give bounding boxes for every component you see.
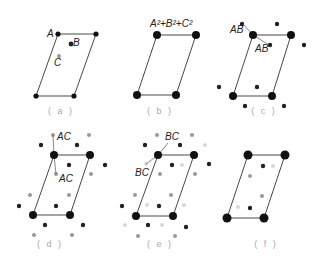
atom-label: BC xyxy=(165,131,180,142)
lattice-point xyxy=(33,93,38,98)
lattice-point xyxy=(192,31,200,39)
mid-atom-dot xyxy=(248,174,252,178)
light-atom-dot xyxy=(236,205,240,209)
light-atom-dot xyxy=(180,163,184,167)
mid-atom-dot xyxy=(260,194,264,198)
unit-cell-outline xyxy=(36,34,96,96)
dark-atom-dot xyxy=(43,223,47,227)
lattice-point xyxy=(169,212,177,220)
dark-atom-dot xyxy=(157,204,161,208)
dark-atom-dot xyxy=(302,43,306,47)
light-atom-dot xyxy=(271,164,275,168)
panel-caption: ( c ) xyxy=(251,106,277,116)
panel-a: ABC( a ) xyxy=(33,28,98,116)
unit-cell-outline xyxy=(137,35,196,95)
dark-atom-dot xyxy=(54,204,58,208)
lattice-point xyxy=(172,91,180,99)
light-atom-dot xyxy=(160,223,164,227)
dark-atom-dot xyxy=(39,143,43,147)
unit-cell-outline xyxy=(33,155,90,215)
dark-atom-dot xyxy=(243,104,247,108)
panel-caption: ( d ) xyxy=(37,239,63,249)
light-atom-dot xyxy=(145,203,149,207)
mid-atom-dot xyxy=(155,133,159,137)
lattice-point xyxy=(55,31,60,36)
atom-label: AC xyxy=(58,173,74,184)
dark-atom-dot xyxy=(184,225,188,229)
dark-atom-dot xyxy=(103,163,107,167)
panel-d: ACAC( d ) xyxy=(17,131,107,249)
dark-atom-dot xyxy=(207,162,211,166)
light-atom-dot xyxy=(182,203,186,207)
dark-atom-dot xyxy=(170,163,174,167)
lattice-diagram: ABC( a )A²+B²+C²( b )ABAB( c )ACAC( d )B… xyxy=(0,0,321,272)
lattice-point xyxy=(71,93,76,98)
atom-label: AB xyxy=(229,24,244,35)
panel-caption: ( a ) xyxy=(48,106,74,116)
dark-atom-dot xyxy=(275,22,279,26)
dark-atom-dot xyxy=(217,85,221,89)
panel-f: ( f ) xyxy=(223,151,290,250)
dark-atom-dot xyxy=(143,143,147,147)
lattice-point xyxy=(223,214,232,223)
light-atom-dot xyxy=(123,223,127,227)
lattice-point xyxy=(268,92,276,100)
dark-atom-dot xyxy=(17,204,21,208)
mid-atom-dot xyxy=(173,234,177,238)
dark-atom-dot xyxy=(67,163,71,167)
atom-label: AC xyxy=(56,131,72,142)
mid-atom-dot xyxy=(28,193,32,197)
lattice-point xyxy=(260,214,269,223)
lattice-point xyxy=(190,151,198,159)
mid-atom-dot xyxy=(190,133,194,137)
dark-atom-dot xyxy=(146,223,150,227)
panel-caption: ( e ) xyxy=(147,239,173,249)
mid-atom-dot xyxy=(89,172,93,176)
dark-atom-dot xyxy=(248,206,252,210)
mid-atom-dot xyxy=(70,233,74,237)
diagram-canvas: ABC( a )A²+B²+C²( b )ABAB( c )ACAC( d )B… xyxy=(0,0,321,272)
atom-label: AB xyxy=(254,43,269,54)
lattice-point xyxy=(29,211,37,219)
lattice-point xyxy=(249,31,257,39)
unit-cell-outline xyxy=(227,155,285,218)
atom-label: BC xyxy=(135,167,150,178)
mid-atom-dot xyxy=(136,234,140,238)
panel-e: BCBC( e ) xyxy=(120,131,211,249)
mid-atom-dot xyxy=(32,233,36,237)
dark-atom-dot xyxy=(75,143,79,147)
atom-label: B xyxy=(73,37,80,48)
lattice-point xyxy=(229,92,237,100)
atom-label: C xyxy=(54,57,62,68)
panel-c: ABAB( c ) xyxy=(217,22,306,116)
dark-atom-dot xyxy=(282,104,286,108)
lattice-point xyxy=(133,91,141,99)
lattice-point xyxy=(287,31,295,39)
mid-atom-dot xyxy=(193,172,197,176)
mid-atom-dot xyxy=(67,193,71,197)
mid-atom-dot xyxy=(169,193,173,197)
lattice-point xyxy=(154,151,162,159)
atom-label: A xyxy=(46,28,54,39)
lattice-point xyxy=(281,151,290,160)
mid-atom-dot xyxy=(158,172,162,176)
mid-atom-dot xyxy=(87,133,91,137)
lattice-point xyxy=(86,151,94,159)
lattice-point xyxy=(50,151,58,159)
panel-caption: ( f ) xyxy=(254,239,278,249)
panel-b: A²+B²+C²( b ) xyxy=(133,18,200,116)
lattice-point xyxy=(132,212,140,220)
mid-atom-dot xyxy=(133,193,137,197)
dark-atom-dot xyxy=(261,164,265,168)
lattice-point xyxy=(244,151,253,160)
lattice-point xyxy=(153,31,161,39)
atom-label: A²+B²+C² xyxy=(149,18,193,29)
lattice-point xyxy=(66,211,74,219)
dark-atom-dot xyxy=(178,143,182,147)
light-atom-dot xyxy=(203,143,207,147)
lattice-point xyxy=(93,31,98,36)
dark-atom-dot xyxy=(120,204,124,208)
dark-atom-dot xyxy=(255,85,259,89)
dark-atom-dot xyxy=(81,223,85,227)
panel-caption: ( b ) xyxy=(147,106,173,116)
